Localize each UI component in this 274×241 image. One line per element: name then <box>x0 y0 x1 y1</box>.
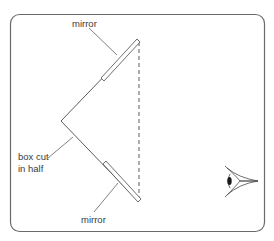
label-mirror-top: mirror <box>72 18 97 29</box>
label-mirror-bottom: mirror <box>81 214 106 225</box>
mirror-bottom <box>103 161 141 202</box>
eye-icon <box>225 166 258 197</box>
label-box-line1: box cut <box>18 151 49 162</box>
box-cut-in-half <box>61 40 139 202</box>
leader-mirror-bottom <box>94 183 118 212</box>
label-box-line2: in half <box>18 163 44 174</box>
leader-mirror-top <box>89 28 117 55</box>
leader-box <box>48 137 73 158</box>
mirror-box-diagram: mirror box cut in half mirror <box>0 0 274 241</box>
